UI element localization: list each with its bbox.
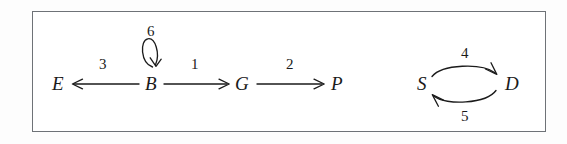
edge-label-3: 3	[99, 57, 107, 72]
node-E: E	[52, 74, 64, 93]
edge-label-1: 1	[191, 57, 199, 72]
node-G: G	[235, 74, 249, 93]
edge-label-6: 6	[147, 24, 155, 39]
edge-label-5: 5	[461, 109, 469, 124]
edge-label-4: 4	[461, 46, 469, 61]
node-D: D	[505, 74, 519, 93]
node-S: S	[417, 74, 427, 93]
node-P: P	[331, 74, 343, 93]
reaction-network-figure: E B G P S D 3 6 1 2 4 5	[0, 0, 567, 144]
edge-label-2: 2	[286, 57, 294, 72]
node-B: B	[145, 74, 157, 93]
